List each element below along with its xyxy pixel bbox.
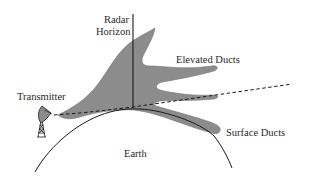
elevated-ducts-label: Elevated Ducts xyxy=(176,55,240,66)
surface-ducts-label: Surface Ducts xyxy=(226,128,285,139)
radar-horizon-label: Radar Horizon xyxy=(96,14,129,38)
radar-horizon-label-line2: Horizon xyxy=(96,26,129,38)
radar-horizon-label-line1: Radar xyxy=(96,14,129,26)
earth-label: Earth xyxy=(124,149,147,160)
duct-region xyxy=(58,28,220,134)
transmitter-label: Transmitter xyxy=(17,92,66,103)
transmitter-antenna-icon xyxy=(37,106,52,137)
